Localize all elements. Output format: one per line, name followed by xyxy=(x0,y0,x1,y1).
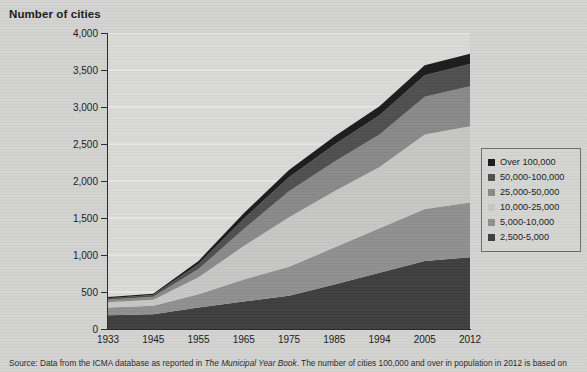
legend-item[interactable]: 10,000-25,000 xyxy=(488,200,575,215)
y-axis-tick xyxy=(101,70,107,71)
legend-swatch-icon xyxy=(488,219,495,226)
x-axis-label: 1955 xyxy=(187,334,209,345)
x-axis-label: 1933 xyxy=(97,334,119,345)
source-caption: Source: Data from the ICMA database as r… xyxy=(9,358,581,368)
legend-swatch-icon xyxy=(488,204,495,211)
legend-swatch-icon xyxy=(488,174,495,181)
x-axis-label: 1975 xyxy=(278,334,300,345)
x-axis-label: 1985 xyxy=(323,334,345,345)
legend-label: Over 100,000 xyxy=(500,158,556,167)
x-axis-label: 1994 xyxy=(368,334,390,345)
y-axis-tick xyxy=(101,33,107,34)
x-axis-label: 1945 xyxy=(142,334,164,345)
legend-item[interactable]: 50,000-100,000 xyxy=(488,170,575,185)
legend-item[interactable]: 2,500-5,000 xyxy=(488,230,575,245)
y-axis-tick xyxy=(101,218,107,219)
page-title: Number of cities xyxy=(9,8,101,20)
y-axis-label: 2,500 xyxy=(73,139,98,150)
y-axis-label: 3,000 xyxy=(73,102,98,113)
x-axis-label: 1965 xyxy=(233,334,255,345)
legend-label: 50,000-100,000 xyxy=(500,173,564,182)
chart-figure: Number of cities 05001,0001,5002,0002,50… xyxy=(0,0,587,372)
legend-item[interactable]: 5,000-10,000 xyxy=(488,215,575,230)
x-axis-label: 2012 xyxy=(459,334,481,345)
y-axis-tick xyxy=(101,255,107,256)
legend-item[interactable]: 25,000-50,000 xyxy=(488,185,575,200)
y-axis-label: 2,000 xyxy=(73,176,98,187)
y-axis-tick xyxy=(101,292,107,293)
plot-area xyxy=(108,33,470,329)
caption-prefix: Source: Data from the ICMA database as r… xyxy=(9,358,205,368)
legend: Over 100,00050,000-100,00025,000-50,0001… xyxy=(481,148,581,252)
y-axis-label: 1,000 xyxy=(73,250,98,261)
legend-swatch-icon xyxy=(488,189,495,196)
caption-suffix: . The number of cities 100,000 and over … xyxy=(297,358,567,368)
legend-label: 25,000-50,000 xyxy=(500,188,559,197)
y-axis-label: 1,500 xyxy=(73,213,98,224)
legend-label: 5,000-10,000 xyxy=(500,218,554,227)
y-axis-tick xyxy=(101,181,107,182)
legend-label: 2,500-5,000 xyxy=(500,233,549,242)
y-axis-line xyxy=(107,33,108,330)
y-axis-label: 0 xyxy=(92,324,98,335)
legend-swatch-icon xyxy=(488,159,495,166)
x-axis-label: 2005 xyxy=(414,334,436,345)
legend-label: 10,000-25,000 xyxy=(500,203,559,212)
caption-publication-title: The Municipal Year Book xyxy=(205,358,297,368)
y-axis-label: 4,000 xyxy=(73,28,98,39)
stacked-area-chart xyxy=(108,33,470,329)
y-axis-tick xyxy=(101,107,107,108)
y-axis-label: 500 xyxy=(81,287,98,298)
legend-item[interactable]: Over 100,000 xyxy=(488,155,575,170)
y-axis-tick xyxy=(101,144,107,145)
y-axis-tick xyxy=(101,329,107,330)
y-axis-label: 3,500 xyxy=(73,65,98,76)
legend-swatch-icon xyxy=(488,234,495,241)
x-axis-line xyxy=(107,329,471,330)
